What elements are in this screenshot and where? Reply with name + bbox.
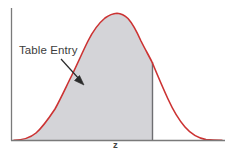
z-axis-label: z bbox=[113, 140, 118, 150]
chart-canvas bbox=[0, 0, 231, 158]
normal-distribution-figure: Table Entry z bbox=[0, 0, 231, 158]
shaded-area-left-of-z bbox=[16, 13, 152, 140]
table-entry-label: Table Entry bbox=[19, 45, 78, 57]
